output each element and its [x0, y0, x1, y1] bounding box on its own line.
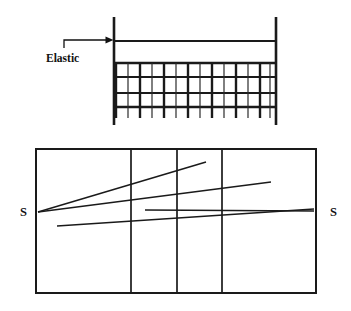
diagram-canvas: Elastic S S — [0, 0, 351, 311]
s-label-right: S — [330, 205, 337, 219]
figure-background — [0, 0, 351, 311]
elastic-label: Elastic — [46, 52, 79, 64]
s-label-left: S — [20, 205, 27, 219]
figure-root: Elastic S S — [0, 0, 351, 311]
